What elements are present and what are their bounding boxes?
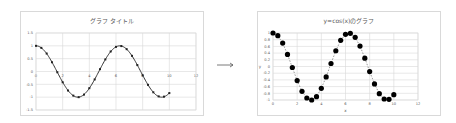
data-point: [304, 95, 309, 100]
y-axis-title: y: [259, 64, 262, 69]
data-point: [104, 58, 106, 60]
x-tick-label: 2: [62, 74, 64, 78]
data-point: [324, 74, 329, 79]
arrow-icon: [216, 60, 236, 70]
data-point: [142, 74, 144, 76]
y-tick-label: 1: [31, 44, 33, 48]
data-point: [367, 69, 372, 74]
data-point: [115, 46, 117, 48]
data-point: [372, 81, 377, 86]
y-tick-label: -0.6: [263, 85, 271, 89]
data-point: [136, 64, 138, 66]
x-axis-title: x: [344, 108, 347, 113]
data-point: [357, 43, 362, 48]
x-tick-label: 6: [344, 102, 347, 106]
x-tick-label: 0: [35, 74, 38, 78]
y-tick-label: 0.5: [27, 57, 33, 61]
data-point: [309, 97, 314, 102]
y-tick-label: 0.6: [264, 45, 270, 49]
data-point: [99, 68, 101, 70]
data-point: [333, 48, 338, 53]
y-tick-label: -1: [266, 98, 270, 102]
data-point: [338, 38, 343, 43]
y-tick-label: 1.5: [27, 31, 33, 35]
data-point: [56, 71, 58, 73]
x-tick-label: 12: [416, 102, 421, 106]
data-point: [386, 97, 391, 102]
data-point: [67, 89, 69, 91]
data-point: [362, 56, 367, 61]
data-point: [147, 84, 149, 86]
data-point: [391, 92, 396, 97]
y-tick-label: -0.5: [26, 83, 33, 87]
y-tick-label: 0.8: [264, 38, 270, 42]
x-tick-label: 2: [296, 102, 298, 106]
data-point: [285, 52, 290, 57]
data-point: [126, 48, 128, 50]
y-tick-label: -1.5: [26, 108, 33, 112]
x-tick-label: 8: [369, 102, 372, 106]
y-tick-label: 0: [268, 65, 271, 69]
data-point: [275, 33, 280, 38]
x-tick-label: 6: [115, 74, 118, 78]
chart-before: グラフ タイトル 1.510.50-0.5-1-1.5024681012: [20, 11, 204, 116]
data-point: [270, 30, 275, 35]
x-tick-label: 10: [167, 74, 172, 78]
data-point: [328, 61, 333, 66]
x-tick-label: 4: [320, 102, 323, 106]
y-tick-label: 0.2: [264, 58, 270, 62]
data-point: [353, 35, 358, 40]
data-point: [314, 94, 319, 99]
data-point: [78, 96, 80, 98]
data-point: [40, 47, 42, 49]
y-tick-label: -0.2: [263, 71, 270, 75]
data-point: [120, 45, 122, 47]
data-point: [158, 95, 160, 97]
chart-plot: 10.80.60.40.20-0.2-0.4-0.6-0.8-102468101…: [258, 12, 442, 117]
chart-plot: 1.510.50-0.5-1-1.5024681012: [21, 12, 205, 117]
x-tick-label: 10: [392, 102, 397, 106]
data-point: [110, 50, 112, 52]
y-tick-label: -0.8: [263, 92, 271, 96]
data-point: [35, 45, 37, 47]
data-point: [377, 91, 382, 96]
data-point: [131, 55, 133, 57]
data-point: [299, 89, 304, 94]
data-point: [83, 94, 85, 96]
data-point: [94, 78, 96, 80]
data-point: [163, 96, 165, 98]
data-point: [280, 40, 285, 45]
data-point: [168, 92, 170, 94]
y-tick-label: -0.4: [263, 78, 271, 82]
data-point: [290, 65, 295, 70]
data-point: [72, 95, 74, 97]
data-point: [319, 86, 324, 91]
data-point: [51, 61, 53, 63]
data-point: [295, 78, 300, 83]
x-tick-label: 0: [272, 102, 275, 106]
y-tick-label: 1: [268, 31, 270, 35]
y-tick-label: -1: [29, 95, 33, 99]
data-point: [152, 91, 154, 93]
y-tick-label: 0: [31, 70, 34, 74]
chart-after: y=cos(x)のグラフ 10.80.60.40.20-0.2-0.4-0.6-…: [257, 11, 441, 116]
x-tick-label: 4: [88, 74, 91, 78]
data-point: [348, 31, 353, 36]
data-point: [62, 81, 64, 83]
data-point: [382, 96, 387, 101]
y-tick-label: 0.4: [264, 51, 270, 55]
data-point: [343, 32, 348, 37]
data-point: [88, 87, 90, 89]
data-point: [46, 53, 48, 55]
